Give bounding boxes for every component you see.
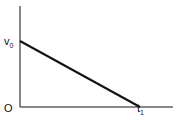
x-label-t1: t1 — [137, 103, 144, 114]
chart-canvas — [0, 0, 184, 127]
y-label-v0: v0 — [4, 36, 13, 47]
data-line — [20, 41, 140, 107]
origin-label: O — [4, 103, 13, 114]
